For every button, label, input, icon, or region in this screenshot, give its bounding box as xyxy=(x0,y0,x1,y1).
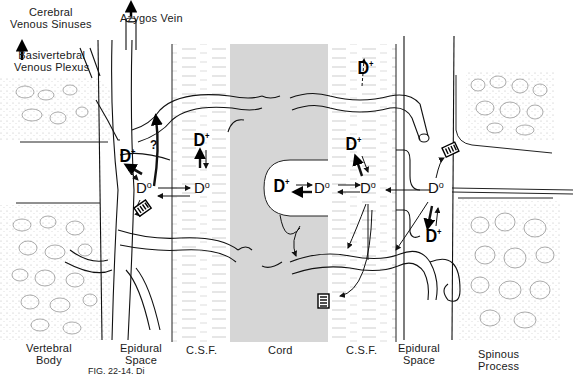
label-line: Epidural xyxy=(398,342,440,354)
figure-caption: FIG. 22-14. Di xyxy=(88,366,145,376)
label-line: Cerebral xyxy=(10,6,92,18)
label-line: Venous Sinuses xyxy=(10,18,92,30)
label-line: Process xyxy=(478,360,519,372)
species-letter: D xyxy=(194,179,205,196)
species-charge: o xyxy=(371,180,376,190)
unionized-drug-label: Do xyxy=(136,180,152,195)
ionized-drug-label: D+ xyxy=(425,226,441,245)
label-line: Spinous xyxy=(478,348,519,360)
species-charge: + xyxy=(285,177,289,187)
unionized-drug-label: Do xyxy=(360,180,376,195)
species-letter: D xyxy=(273,175,285,196)
label-epidural-space-right: Epidural Space xyxy=(398,342,440,366)
label-cord: Cord xyxy=(268,344,293,356)
unionized-drug-label: Do xyxy=(194,180,210,195)
label-epidural-space-left: Epidural Space xyxy=(120,342,162,366)
species-letter: D xyxy=(357,57,369,78)
spinous-process-bone xyxy=(456,72,560,340)
species-charge: + xyxy=(369,59,373,69)
species-charge: + xyxy=(437,227,441,237)
species-charge: + xyxy=(131,147,135,157)
species-charge: o xyxy=(325,180,330,190)
species-letter: D xyxy=(428,179,439,196)
label-line: Space xyxy=(120,354,162,366)
label-line: Epidural xyxy=(120,342,162,354)
ionized-drug-label: D+ xyxy=(357,58,373,77)
species-charge: o xyxy=(439,180,444,190)
label-spinous-process: Spinous Process xyxy=(478,348,519,372)
species-letter: D xyxy=(314,179,325,196)
label-line: Vertebral xyxy=(26,342,72,354)
label-azygos-vein: Azygos Vein xyxy=(120,12,183,24)
ionized-drug-label: D+ xyxy=(119,146,135,165)
label-basivertebral-venous-plexus: Basivertebral Venous Plexus xyxy=(14,49,89,73)
diagram-figure: Cerebral Venous Sinuses Basivertebral Ve… xyxy=(0,0,573,376)
label-line: Venous Plexus xyxy=(14,61,89,73)
label-csf-right: C.S.F. xyxy=(346,344,377,356)
unionized-drug-label: Do xyxy=(314,180,330,195)
unionized-drug-label: Do xyxy=(428,180,444,195)
ionized-drug-label: D+ xyxy=(273,176,289,195)
ionized-drug-label: D+ xyxy=(193,130,209,149)
label-vertebral-body: Vertebral Body xyxy=(26,342,72,366)
species-letter: D xyxy=(193,129,205,150)
species-letter: D xyxy=(119,145,131,166)
label-cerebral-venous-sinuses: Cerebral Venous Sinuses xyxy=(10,6,92,30)
species-charge: o xyxy=(147,180,152,190)
question-mark: ? xyxy=(150,138,157,152)
vertebral-body-bone xyxy=(0,78,110,340)
species-letter: D xyxy=(425,225,437,246)
species-letter: D xyxy=(345,133,357,154)
label-line: Basivertebral xyxy=(14,49,89,61)
species-charge: o xyxy=(205,180,210,190)
species-charge: + xyxy=(357,135,361,145)
species-letter: D xyxy=(360,179,371,196)
ionized-drug-label: D+ xyxy=(345,134,361,153)
species-charge: + xyxy=(205,131,209,141)
species-letter: D xyxy=(136,179,147,196)
label-line: Body xyxy=(26,354,72,366)
label-csf-left: C.S.F. xyxy=(186,344,217,356)
label-line: Space xyxy=(398,354,440,366)
